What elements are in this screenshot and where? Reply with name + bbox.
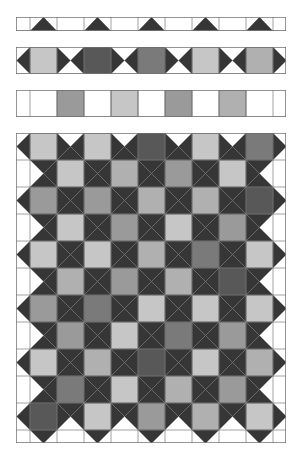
square-tile <box>246 349 273 376</box>
square-tile <box>30 47 57 74</box>
square-tile <box>192 241 219 268</box>
triangle-shape <box>165 117 192 131</box>
square-tile <box>192 349 219 376</box>
square-tile <box>57 268 84 295</box>
square-tile <box>246 187 273 214</box>
square-tile <box>219 160 246 187</box>
square-tile <box>246 133 273 160</box>
square-tile <box>165 268 192 295</box>
square-tile <box>30 241 57 268</box>
square-tile <box>138 295 165 322</box>
square-tile <box>219 268 246 295</box>
square-tile <box>192 295 219 322</box>
square-tile <box>138 403 165 430</box>
square-tile <box>192 133 219 160</box>
triangle-shape <box>219 77 246 91</box>
square-tile <box>219 322 246 349</box>
square-tile <box>57 376 84 403</box>
square-tile <box>84 47 111 74</box>
triangle-shape <box>57 77 84 91</box>
square-tile <box>165 322 192 349</box>
square-tile <box>111 160 138 187</box>
triangle-shape <box>165 77 192 91</box>
square-tile <box>165 160 192 187</box>
triangle-shape <box>246 120 273 134</box>
square-tile <box>192 403 219 430</box>
square-tile <box>138 241 165 268</box>
square-tile <box>246 403 273 430</box>
quilt-pattern-diagram <box>0 0 300 455</box>
main-quilt-grid <box>16 120 287 444</box>
strip-top-triangles <box>16 17 286 31</box>
square-tile <box>111 214 138 241</box>
square-tile <box>165 214 192 241</box>
triangle-shape <box>111 117 138 131</box>
square-tile <box>219 376 246 403</box>
square-tile <box>30 187 57 214</box>
square-tile <box>165 90 192 117</box>
square-tile <box>192 47 219 74</box>
square-tile <box>111 322 138 349</box>
strip-horizontal-bowties <box>16 47 287 74</box>
square-tile <box>84 403 111 430</box>
main-grid-band <box>16 120 287 444</box>
triangle-shape <box>192 120 219 134</box>
border-strips <box>16 17 287 131</box>
square-tile <box>57 322 84 349</box>
square-tile <box>246 241 273 268</box>
square-tile <box>165 376 192 403</box>
square-tile <box>30 349 57 376</box>
triangle-shape <box>57 117 84 131</box>
square-tile <box>84 295 111 322</box>
square-tile <box>57 160 84 187</box>
square-tile <box>84 187 111 214</box>
triangle-shape <box>138 120 165 134</box>
square-tile <box>219 214 246 241</box>
square-tile <box>246 295 273 322</box>
strip-vertical-bowties <box>16 77 286 131</box>
square-tile <box>84 241 111 268</box>
square-tile <box>111 376 138 403</box>
square-tile <box>84 133 111 160</box>
square-tile <box>57 214 84 241</box>
square-tile <box>192 187 219 214</box>
triangle-shape <box>30 120 57 134</box>
triangle-shape <box>84 120 111 134</box>
square-tile <box>84 349 111 376</box>
triangle-shape <box>111 77 138 91</box>
square-tile <box>138 133 165 160</box>
square-tile <box>111 268 138 295</box>
square-tile <box>30 295 57 322</box>
square-tile <box>138 47 165 74</box>
square-tile <box>30 403 57 430</box>
square-tile <box>30 133 57 160</box>
square-tile <box>246 47 273 74</box>
square-tile <box>138 187 165 214</box>
square-tile <box>57 90 84 117</box>
square-tile <box>219 90 246 117</box>
triangle-shape <box>219 117 246 131</box>
square-tile <box>138 349 165 376</box>
square-tile <box>111 90 138 117</box>
